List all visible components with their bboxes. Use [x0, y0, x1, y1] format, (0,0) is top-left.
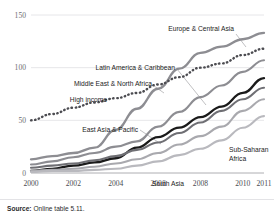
clipped-header-strip [0, 0, 274, 9]
chart-plot-area: 050100150 2000200220042006200820102011 E… [0, 9, 274, 197]
source-label: Source: [7, 205, 32, 212]
source-value: Online table 5.11. [33, 205, 84, 212]
series-annotation: Middle East & North Africa [74, 80, 152, 87]
y-axis-ticks-group: 050100150 [15, 11, 27, 178]
series-annotation: Europe & Central Asia [168, 25, 234, 33]
y-tick-label: 50 [18, 116, 26, 125]
series-line [31, 33, 264, 159]
source-note: Source: Online table 5.11. [7, 205, 85, 212]
x-axis-ticks-group: 2000200220042006200820102011 [23, 179, 271, 188]
line-chart-svg: 050100150 2000200220042006200820102011 E… [0, 9, 274, 197]
series-annotation: South Asia [152, 180, 184, 187]
x-tick-label: 2010 [235, 179, 250, 188]
figure-container: 050100150 2000200220042006200820102011 E… [0, 0, 274, 223]
y-tick-label: 150 [15, 11, 27, 20]
y-tick-label: 100 [15, 63, 27, 72]
x-tick-label: 2002 [66, 179, 81, 188]
y-tick-label: 0 [22, 169, 26, 178]
series-annotation: High income [70, 96, 107, 104]
x-tick-label: 2011 [257, 179, 272, 188]
x-tick-label: 2004 [108, 179, 123, 188]
x-tick-label: 2000 [23, 179, 38, 188]
series-annotation: Sub-SaharanAfrica [229, 146, 269, 162]
figure-footer: Source: Online table 5.11. [0, 199, 274, 223]
series-annotation: Latin America & Caribbean [95, 64, 175, 71]
x-tick-label: 2008 [193, 179, 208, 188]
series-annotation: East Asia & Pacific [82, 126, 138, 133]
